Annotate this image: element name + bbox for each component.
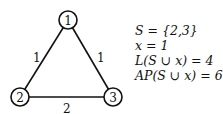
node-1: 1 (59, 11, 77, 29)
node-3-label: 3 (109, 91, 117, 105)
edge-weight-2-3: 2 (63, 102, 71, 114)
equation-x: x = 1 (135, 38, 168, 53)
edge-weight-1-3: 1 (97, 51, 105, 65)
node-2-label: 2 (16, 91, 24, 105)
equation-ap: AP(S ∪ x) = 6 (135, 68, 223, 83)
node-3: 3 (104, 88, 122, 106)
equation-set-s: S = {2,3} (135, 23, 198, 38)
node-1-label: 1 (64, 14, 72, 28)
edge-weight-1-2: 1 (33, 51, 41, 65)
edge-1-2 (20, 20, 68, 97)
edge-1-3 (68, 20, 113, 97)
node-2: 2 (11, 88, 29, 106)
equation-l: L(S ∪ x) = 4 (135, 53, 213, 68)
